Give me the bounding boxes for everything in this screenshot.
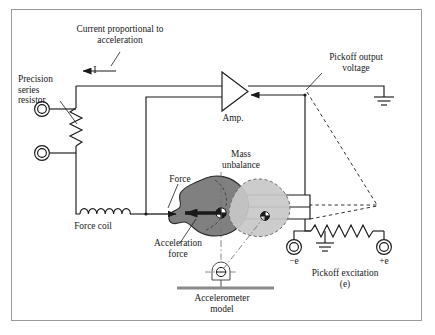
excitation-resistor [305, 219, 384, 237]
junction-dot-coil-node [144, 212, 147, 215]
terminal-post-negative [287, 240, 302, 255]
force-coil-return-wire [76, 166, 80, 214]
excitation-positive-label: +e [366, 256, 402, 267]
force-label: Force [158, 174, 202, 185]
pickoff-output-label: Pickoff outputvoltage [311, 52, 401, 73]
force-coil-label: Force coil [57, 221, 129, 232]
current-symbol-label: I [87, 64, 103, 75]
current-note-leader [111, 52, 120, 66]
terminal-post-positive [377, 240, 392, 255]
accelerometer-model-label: Accelerometermodel [174, 293, 270, 314]
terminal-post-bottom [35, 146, 50, 161]
amplifier-symbol [222, 72, 248, 111]
pickoff-output-leader [306, 73, 322, 90]
junction-dot-pickoff-node [303, 93, 306, 96]
amplifier-label: Amp. [210, 113, 256, 124]
pivot-hinge [205, 262, 238, 288]
pickoff-callout-dashed-lines [307, 92, 377, 219]
excitation-negative-label: −e [276, 256, 312, 267]
mass-unbalance-label: Massunbalance [203, 149, 279, 170]
pickoff-excitation-label: Pickoff excitation(e) [289, 268, 401, 289]
figure-canvas: Current proportional toacceleration I Pr… [0, 0, 435, 335]
output-ground-symbol [374, 97, 394, 105]
force-coil-inductor [80, 209, 130, 214]
acceleration-force-label: Accelerationforce [131, 238, 225, 259]
excitation-negative-lead [294, 231, 311, 240]
force-label-leader [168, 184, 178, 208]
current-note: Current proportional toacceleration [61, 24, 179, 45]
precision-resistor-label: Precisionseriesresistor [18, 74, 80, 106]
